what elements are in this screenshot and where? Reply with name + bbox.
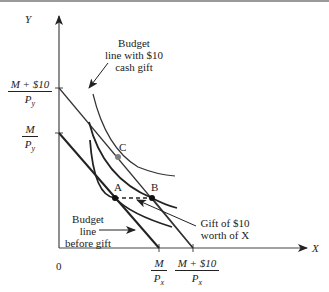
point-a-label: A <box>114 181 122 193</box>
point-a <box>112 195 118 201</box>
gift-in-kind-annotation-line-2: worth of X <box>195 229 255 241</box>
x-intercept-cash: M + $10 Px <box>175 257 219 289</box>
x-intercept-original-denominator: Px <box>151 271 167 289</box>
y-axis-label: Y <box>25 13 31 25</box>
origin-label: 0 <box>56 260 62 272</box>
point-c <box>115 154 121 160</box>
indifference-curve-high <box>93 94 175 176</box>
gift-in-kind-annotation-line-1: Gift of $10 <box>195 217 255 229</box>
cash-gift-annotation-line-3: cash gift <box>98 61 170 73</box>
gift-in-kind-annotation: Gift of $10 worth of X <box>195 217 255 241</box>
y-intercept-cash: M + $10 Py <box>8 78 52 110</box>
y-intercept-original: M Py <box>22 123 38 155</box>
y-intercept-cash-denominator: Py <box>8 92 52 110</box>
cash-gift-annotation-line-1: Budget <box>98 37 170 49</box>
cash-gift-annotation: Budget line with $10 cash gift <box>98 37 170 73</box>
cash-gift-annotation-line-2: line with $10 <box>98 49 170 61</box>
x-axis-label: X <box>312 242 319 254</box>
y-intercept-original-denominator: Py <box>22 137 38 155</box>
point-c-label: C <box>119 141 126 153</box>
y-intercept-original-numerator: M <box>22 123 38 137</box>
y-intercept-cash-numerator: M + $10 <box>8 78 52 92</box>
before-gift-annotation-line-1: Budget <box>64 213 112 225</box>
before-gift-annotation: Budget line before gift <box>64 213 112 249</box>
x-intercept-original-numerator: M <box>151 257 167 271</box>
before-gift-annotation-line-3: before gift <box>64 237 112 249</box>
point-b-label: B <box>151 181 158 193</box>
indifference-curve-mid <box>89 122 177 208</box>
x-intercept-original: M Px <box>151 257 167 289</box>
before-gift-annotation-line-2: line <box>64 225 112 237</box>
x-intercept-cash-denominator: Px <box>175 271 219 289</box>
x-intercept-cash-numerator: M + $10 <box>175 257 219 271</box>
point-b <box>149 195 155 201</box>
